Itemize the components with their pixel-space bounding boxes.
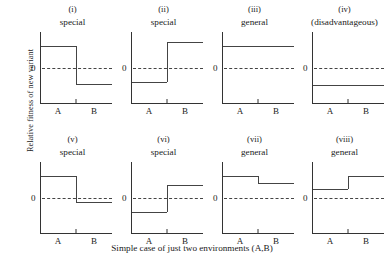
x-tick-labels: A B bbox=[222, 106, 294, 118]
x-axis-tick bbox=[348, 99, 349, 104]
zero-line bbox=[42, 68, 112, 69]
panel-number: (i) bbox=[28, 4, 117, 14]
y-axis bbox=[131, 32, 132, 104]
series-segment-a bbox=[313, 85, 348, 86]
x-axis-tick bbox=[258, 99, 259, 104]
x-label-b: B bbox=[167, 106, 203, 116]
panel-title: special bbox=[22, 17, 123, 27]
panel-title: special bbox=[22, 147, 123, 157]
panel-plot: 0 A B bbox=[222, 32, 294, 104]
x-axis-tick bbox=[76, 99, 77, 104]
panel-grid: (i) special 0 A B bbox=[26, 4, 384, 240]
y-axis bbox=[222, 32, 223, 104]
y-axis bbox=[40, 162, 41, 234]
series-riser bbox=[76, 46, 77, 85]
zero-line bbox=[314, 198, 384, 199]
x-label-b: B bbox=[76, 106, 112, 116]
zero-line bbox=[224, 198, 294, 199]
series-segment-b bbox=[348, 176, 384, 177]
panel-row-top: (i) special 0 A B bbox=[26, 4, 384, 134]
x-label-a: A bbox=[40, 106, 76, 116]
panel-title: special bbox=[113, 147, 214, 157]
panel-plot: 0 A B bbox=[40, 162, 112, 234]
y-axis bbox=[40, 32, 41, 104]
panel-plot: 0 A B bbox=[222, 162, 294, 234]
series-riser bbox=[167, 185, 168, 212]
x-axis-caption: Simple case of just two environments (A,… bbox=[0, 243, 384, 253]
zero-label: 0 bbox=[303, 64, 308, 73]
y-axis bbox=[131, 162, 132, 234]
panel-number: (vii) bbox=[210, 134, 299, 144]
y-axis bbox=[312, 162, 313, 234]
zero-label: 0 bbox=[213, 64, 218, 73]
panel-number: (vi) bbox=[119, 134, 208, 144]
zero-line bbox=[314, 68, 384, 69]
panel-plot: 0 A B bbox=[131, 32, 203, 104]
panel-number: (ii) bbox=[119, 4, 208, 14]
x-axis-tick bbox=[348, 229, 349, 234]
x-tick-labels: A B bbox=[131, 106, 203, 118]
panel-title: special bbox=[113, 17, 214, 27]
panel-iv: (iv) (disadvantageous) 0 A B bbox=[300, 4, 384, 132]
series-riser bbox=[76, 176, 77, 202]
zero-label: 0 bbox=[213, 194, 218, 203]
zero-line bbox=[224, 68, 294, 69]
x-axis-tick bbox=[167, 229, 168, 234]
panel-i: (i) special 0 A B bbox=[28, 4, 117, 132]
series-segment-a bbox=[41, 176, 76, 177]
series-segment-a bbox=[223, 46, 258, 47]
panel-number: (iii) bbox=[210, 4, 299, 14]
panel-number: (v) bbox=[28, 134, 117, 144]
zero-label: 0 bbox=[31, 194, 36, 203]
panel-title: general bbox=[294, 147, 384, 157]
series-segment-b bbox=[258, 46, 294, 47]
x-label-a: A bbox=[131, 106, 167, 116]
x-label-b: B bbox=[348, 106, 384, 116]
panel-ii: (ii) special 0 A B bbox=[119, 4, 208, 132]
panel-title: general bbox=[204, 17, 305, 27]
panel-plot: 0 A B bbox=[312, 32, 384, 104]
x-label-a: A bbox=[312, 106, 348, 116]
x-axis-tick bbox=[76, 229, 77, 234]
zero-label: 0 bbox=[303, 194, 308, 203]
series-segment-b bbox=[167, 42, 203, 43]
zero-label: 0 bbox=[122, 194, 127, 203]
zero-label: 0 bbox=[31, 64, 36, 73]
panel-title: (disadvantageous) bbox=[294, 17, 384, 27]
series-segment-b bbox=[258, 183, 294, 184]
panel-iii: (iii) general 0 A B bbox=[210, 4, 299, 132]
series-segment-a bbox=[223, 176, 258, 177]
x-label-b: B bbox=[258, 106, 294, 116]
x-axis-tick bbox=[258, 229, 259, 234]
x-tick-labels: A B bbox=[312, 106, 384, 118]
figure-container: Relative fitness of new variant (i) spec… bbox=[0, 0, 384, 266]
panel-number: (iv) bbox=[300, 4, 384, 14]
panel-number: (viii) bbox=[300, 134, 384, 144]
series-segment-a bbox=[313, 189, 348, 190]
series-riser bbox=[167, 42, 168, 82]
panel-plot: 0 A B bbox=[131, 162, 203, 234]
panel-plot: 0 A B bbox=[312, 162, 384, 234]
series-segment-b bbox=[76, 84, 112, 85]
y-axis bbox=[312, 32, 313, 104]
x-label-a: A bbox=[222, 106, 258, 116]
panel-title: general bbox=[204, 147, 305, 157]
zero-label: 0 bbox=[122, 64, 127, 73]
panel-plot: 0 A B bbox=[40, 32, 112, 104]
series-segment-a bbox=[132, 82, 167, 83]
zero-line bbox=[133, 68, 203, 69]
y-axis bbox=[222, 162, 223, 234]
zero-line bbox=[133, 198, 203, 199]
series-segment-a bbox=[132, 212, 167, 213]
series-segment-b bbox=[76, 202, 112, 203]
series-segment-b bbox=[167, 185, 203, 186]
series-riser bbox=[258, 176, 259, 183]
zero-line bbox=[42, 198, 112, 199]
x-axis-tick bbox=[167, 99, 168, 104]
series-segment-a bbox=[41, 46, 76, 47]
series-riser bbox=[348, 176, 349, 189]
series-segment-b bbox=[348, 85, 384, 86]
x-tick-labels: A B bbox=[40, 106, 112, 118]
